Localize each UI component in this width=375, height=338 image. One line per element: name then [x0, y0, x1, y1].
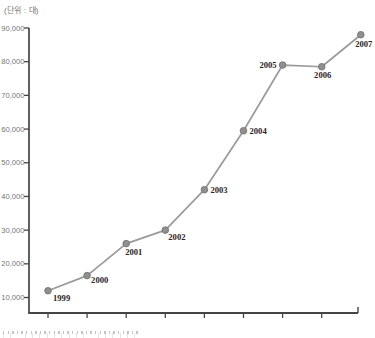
year-label-2004: 2004 [250, 126, 268, 136]
year-label-2007: 2007 [355, 39, 373, 49]
data-point-2004 [240, 127, 247, 134]
data-point-2003 [201, 186, 208, 193]
year-label-2000: 2000 [91, 275, 108, 285]
line-chart-svg: 10,00020,00030,00040,00050,00060,00070,0… [0, 0, 375, 338]
data-point-2007 [358, 31, 365, 38]
y-tick-label: 50,000 [1, 158, 24, 167]
data-point-2005 [279, 62, 286, 69]
year-label-2001: 2001 [125, 247, 142, 257]
data-point-1999 [45, 287, 52, 294]
year-label-2003: 2003 [210, 185, 227, 195]
year-label-2006: 2006 [314, 70, 332, 80]
year-label-2005: 2005 [259, 60, 276, 70]
y-tick-label: 90,000 [1, 24, 24, 33]
data-point-2000 [84, 272, 91, 279]
y-tick-label: 60,000 [1, 125, 24, 134]
chart-page: (단위 : 대) 10,00020,00030,00040,00050,0006… [0, 0, 375, 338]
year-label-1999: 1999 [53, 293, 70, 303]
y-tick-label: 70,000 [1, 91, 24, 100]
cut-off-footnote-text [3, 331, 141, 338]
year-label-2002: 2002 [168, 232, 185, 242]
y-tick-label: 20,000 [1, 259, 24, 268]
y-tick-label: 30,000 [1, 226, 24, 235]
y-tick-label: 10,000 [1, 293, 24, 302]
y-tick-label: 40,000 [1, 192, 24, 201]
y-tick-label: 80,000 [1, 57, 24, 66]
